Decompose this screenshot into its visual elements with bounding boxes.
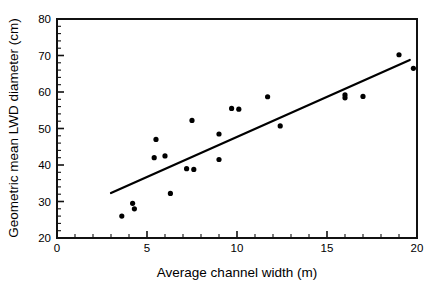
data-point [396, 52, 401, 57]
data-point [229, 106, 234, 111]
regression-line [111, 60, 410, 193]
data-point [130, 201, 135, 206]
data-point [184, 166, 189, 171]
scatter-plot-figure: 05101520 20304050607080 Average channel … [0, 0, 437, 286]
data-point [236, 107, 241, 112]
y-tick-label: 40 [38, 159, 51, 171]
y-tick-label: 30 [38, 196, 51, 208]
data-point [132, 206, 137, 211]
y-tick-label: 60 [38, 86, 51, 98]
y-tick-label: 20 [38, 232, 51, 244]
y-axis-tick-labels: 20304050607080 [38, 13, 51, 244]
y-tick-label: 70 [38, 50, 51, 62]
data-point [342, 95, 347, 100]
plot-frame [57, 19, 417, 238]
y-axis-title: Geometric mean LWD diameter (cm) [6, 18, 21, 238]
y-tick-label: 80 [38, 13, 51, 25]
data-point [216, 131, 221, 136]
plot-canvas: 05101520 20304050607080 Average channel … [0, 0, 437, 286]
data-point [153, 137, 158, 142]
data-point [162, 153, 167, 158]
y-axis-major-ticks [57, 19, 64, 238]
x-tick-label: 5 [144, 242, 150, 254]
x-axis-tick-labels: 05101520 [54, 242, 424, 254]
x-tick-label: 15 [321, 242, 334, 254]
data-point [152, 155, 157, 160]
data-point [278, 123, 283, 128]
data-point [168, 191, 173, 196]
data-point [119, 214, 124, 219]
data-point [411, 66, 416, 71]
x-tick-label: 10 [231, 242, 244, 254]
x-tick-label: 0 [54, 242, 60, 254]
x-tick-label: 20 [411, 242, 424, 254]
data-point [216, 157, 221, 162]
data-point [360, 94, 365, 99]
data-point [189, 118, 194, 123]
x-axis-title: Average channel width (m) [157, 265, 317, 280]
data-point [265, 94, 270, 99]
y-tick-label: 50 [38, 123, 51, 135]
data-point [191, 167, 196, 172]
